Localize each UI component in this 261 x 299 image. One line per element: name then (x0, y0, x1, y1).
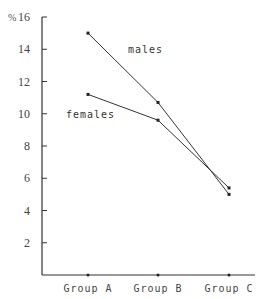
data-point (228, 193, 231, 196)
data-point (157, 119, 160, 122)
x-tick-label: Group A (63, 283, 112, 294)
y-tick-label: 6 (24, 171, 30, 185)
y-axis-unit-label: % (8, 12, 16, 23)
y-tick-label: 10 (18, 107, 30, 121)
series-label-males: males (128, 44, 163, 55)
series-label-females: females (66, 109, 115, 120)
y-tick-label: 4 (24, 204, 30, 218)
y-tick-label: 8 (24, 139, 30, 153)
x-tick-mark (87, 274, 90, 277)
line-chart: 246810121416%Group AGroup BGroup Cmalesf… (0, 0, 261, 299)
data-point (87, 93, 90, 96)
x-tick-mark (228, 274, 231, 277)
y-tick-label: 16 (18, 10, 30, 24)
y-tick-label: 2 (24, 236, 30, 250)
y-tick-label: 14 (18, 42, 30, 56)
data-point (157, 101, 160, 104)
x-tick-label: Group C (204, 283, 253, 294)
x-tick-mark (157, 274, 160, 277)
x-tick-label: Group B (133, 283, 182, 294)
y-tick-label: 12 (18, 75, 30, 89)
data-point (228, 186, 231, 189)
data-point (87, 32, 90, 35)
